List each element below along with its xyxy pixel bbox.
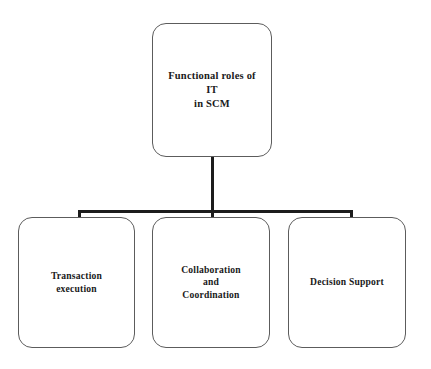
node-label: Collaboration and Coordination [174,264,248,302]
diagram-canvas: Functional roles of IT in SCM Transactio… [0,0,431,369]
node-label: Transaction execution [44,270,109,295]
node-transaction-execution[interactable]: Transaction execution [18,217,135,348]
connector-root-stem [211,157,214,213]
node-label: Decision Support [303,276,391,289]
node-label: Functional roles of IT in SCM [153,69,271,111]
node-functional-roles-of-it-in-scm[interactable]: Functional roles of IT in SCM [152,23,272,157]
node-collaboration-and-coordination[interactable]: Collaboration and Coordination [152,217,270,348]
node-decision-support[interactable]: Decision Support [288,217,406,348]
connector-horizontal-bus [78,210,353,213]
